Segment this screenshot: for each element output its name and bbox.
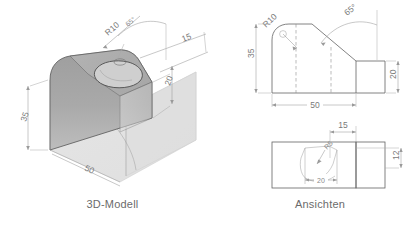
model-dim-label-65: 65°: [124, 15, 137, 27]
views-panel: R10 65° 35: [225, 0, 415, 228]
front-view-label-50: 50: [310, 100, 320, 110]
front-view-dim-35: 35: [246, 24, 271, 93]
model-drawing: 35 50 20 15: [0, 0, 225, 200]
model-dim-pocket-15: 15: [140, 31, 208, 72]
top-view-dim-15: 15: [330, 120, 356, 158]
front-view-label-R10: R10: [261, 11, 279, 29]
top-view: R5 20 15: [272, 120, 403, 188]
model-dim-height-35: 35: [18, 80, 48, 150]
front-view-label-20: 20: [388, 69, 398, 79]
drawing-sheet: 35 50 20 15: [0, 0, 415, 228]
model-dim-label-35: 35: [18, 110, 30, 122]
top-view-dim-12: 12: [356, 148, 403, 168]
model-caption: 3D-Modell: [0, 198, 225, 210]
front-view-label-35: 35: [246, 48, 256, 58]
front-view-dim-R10: R10: [261, 11, 297, 50]
front-view: R10 65° 35: [246, 2, 400, 110]
top-view-label-20: 20: [317, 177, 325, 184]
front-view-dim-angle: 65°: [321, 2, 377, 60]
top-view-label-R5: R5: [323, 139, 334, 150]
top-view-dim-radius: R5: [317, 139, 334, 164]
top-view-label-15: 15: [338, 120, 348, 130]
views-caption: Ansichten: [225, 198, 415, 210]
top-view-dim-20: 20: [305, 174, 337, 184]
top-view-label-12: 12: [391, 150, 401, 160]
model-panel: 35 50 20 15: [0, 0, 225, 228]
front-view-dim-50: 50: [272, 94, 356, 110]
front-view-label-65: 65°: [342, 2, 358, 18]
model-dim-label-15: 15: [180, 31, 193, 44]
views-drawing: R10 65° 35: [225, 0, 415, 200]
front-view-dim-20: 20: [386, 61, 400, 93]
